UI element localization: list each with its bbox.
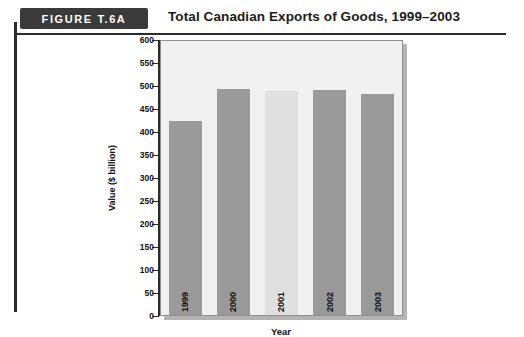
figure-title: Total Canadian Exports of Goods, 1999–20…	[168, 9, 460, 24]
page-left-rule	[14, 22, 17, 312]
x-axis-title: Year	[271, 326, 291, 337]
bar-1999[interactable]: 1999	[169, 121, 202, 315]
bar-category-label: 2003	[373, 292, 383, 312]
y-axis-tick-label: 250	[114, 196, 154, 206]
bar-2001[interactable]: 2001	[265, 91, 298, 315]
y-axis-tick-label: 0	[114, 311, 154, 321]
bar-2002[interactable]: 2002	[313, 90, 346, 315]
y-axis-tick-label: 450	[114, 104, 154, 114]
y-axis-tick-label: 550	[114, 58, 154, 68]
bar-category-label: 2000	[228, 292, 238, 312]
y-axis-tick-label: 150	[114, 242, 154, 252]
y-axis-tick-label: 400	[114, 127, 154, 137]
bar-category-label: 2002	[325, 292, 335, 312]
bar-category-label: 2001	[276, 292, 286, 312]
y-axis-title: Value ($ billion)	[107, 145, 117, 211]
y-axis-tick-label: 200	[114, 219, 154, 229]
y-axis-tick-label: 300	[114, 173, 154, 183]
bar-category-label: 1999	[180, 292, 190, 312]
bar-series: 19992000200120022003	[161, 41, 402, 315]
y-axis-tick-label: 50	[114, 288, 154, 298]
y-axis-tick-label: 350	[114, 150, 154, 160]
header-divider	[14, 33, 506, 35]
figure-page: FIGURE T.6A Total Canadian Exports of Go…	[0, 0, 524, 337]
figure-number-label: FIGURE T.6A	[42, 13, 127, 25]
y-axis-tick-label: 500	[114, 81, 154, 91]
y-axis-tick-label: 600	[114, 35, 154, 45]
figure-number-badge: FIGURE T.6A	[20, 8, 148, 29]
bar-2000[interactable]: 2000	[217, 89, 250, 315]
y-axis-tick-label: 100	[114, 265, 154, 275]
bar-2003[interactable]: 2003	[361, 94, 394, 315]
chart-container: 600550500450400350300250200150100500 Val…	[118, 40, 408, 330]
